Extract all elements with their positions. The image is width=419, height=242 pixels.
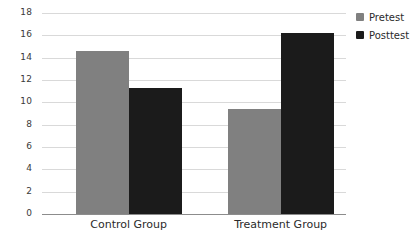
chart-legend: PretestPosttest [356,9,418,45]
y-axis-tick-label: 10 [4,97,32,106]
y-axis-tick-label: 14 [4,53,32,62]
plot-area [42,13,346,214]
legend-label: Posttest [369,30,409,41]
y-axis-tick-label: 12 [4,75,32,84]
legend-label: Pretest [369,12,404,23]
bar-chart: 181614121086420 Control GroupTreatment G… [0,0,419,242]
y-axis-tick-label: 2 [4,187,32,196]
x-axis-tick-label: Control Group [69,218,189,232]
y-axis-tick-label: 16 [4,30,32,39]
y-axis-tick-label: 4 [4,164,32,173]
legend-item-pretest: Pretest [356,9,418,25]
gridline [42,13,346,14]
bar-posttest-treatment-group [281,33,334,214]
x-axis-line [42,214,346,215]
legend-swatch-icon [356,31,364,39]
y-axis-tick-labels: 181614121086420 [0,13,36,214]
legend-swatch-icon [356,13,364,21]
bar-pretest-treatment-group [228,109,281,214]
bar-pretest-control-group [76,51,129,214]
x-axis-category-labels: Control GroupTreatment Group [42,218,346,238]
y-axis-tick-label: 6 [4,142,32,151]
x-axis-tick-label: Treatment Group [221,218,341,232]
y-axis-tick-label: 0 [4,209,32,218]
bar-posttest-control-group [129,88,182,214]
y-axis-tick-label: 8 [4,120,32,129]
legend-item-posttest: Posttest [356,27,418,43]
y-axis-tick-label: 18 [4,8,32,17]
